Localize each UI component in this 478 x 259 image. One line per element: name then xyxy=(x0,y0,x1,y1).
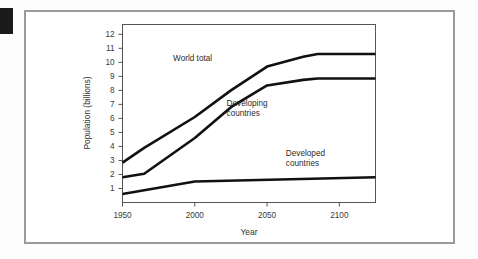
population-projection-chart: 123456789101112 1950200020502100 World t… xyxy=(24,10,455,244)
series-label-developed-countries-line2: countries xyxy=(286,159,319,168)
y-tick-label-6: 6 xyxy=(110,114,115,123)
page-edge-marker-icon xyxy=(0,8,13,34)
y-axis-ticks xyxy=(119,34,123,188)
y-tick-label-2: 2 xyxy=(110,170,115,179)
chart-svg: 123456789101112 1950200020502100 World t… xyxy=(24,10,455,244)
y-tick-label-10: 10 xyxy=(105,58,115,67)
x-axis-ticks xyxy=(123,203,340,207)
series-label-world-total: World total xyxy=(173,54,212,63)
y-tick-label-7: 7 xyxy=(110,100,115,109)
x-tick-label-2050: 2050 xyxy=(258,211,277,220)
y-tick-label-3: 3 xyxy=(110,156,115,165)
y-tick-label-8: 8 xyxy=(110,86,115,95)
y-tick-label-5: 5 xyxy=(110,128,115,137)
x-tick-label-1950: 1950 xyxy=(113,211,132,220)
y-tick-label-12: 12 xyxy=(105,30,115,39)
y-tick-label-11: 11 xyxy=(106,44,115,53)
y-tick-label-1: 1 xyxy=(110,184,115,193)
screenshot-canvas: 123456789101112 1950200020502100 World t… xyxy=(0,0,478,259)
series-label-developed-countries-line1: Developed xyxy=(286,149,326,158)
x-tick-label-2100: 2100 xyxy=(330,211,349,220)
x-tick-label-2000: 2000 xyxy=(186,211,205,220)
series-label-developing-countries-line2: countries xyxy=(227,109,260,118)
x-axis-tick-labels: 1950200020502100 xyxy=(113,211,349,220)
y-tick-label-4: 4 xyxy=(110,142,115,151)
y-axis-tick-labels: 123456789101112 xyxy=(105,30,115,193)
y-axis-title: Population (billions) xyxy=(82,76,92,149)
y-tick-label-9: 9 xyxy=(110,72,115,81)
series-label-developing-countries-line1: Developing xyxy=(227,99,268,108)
x-axis-title: Year xyxy=(241,227,258,237)
